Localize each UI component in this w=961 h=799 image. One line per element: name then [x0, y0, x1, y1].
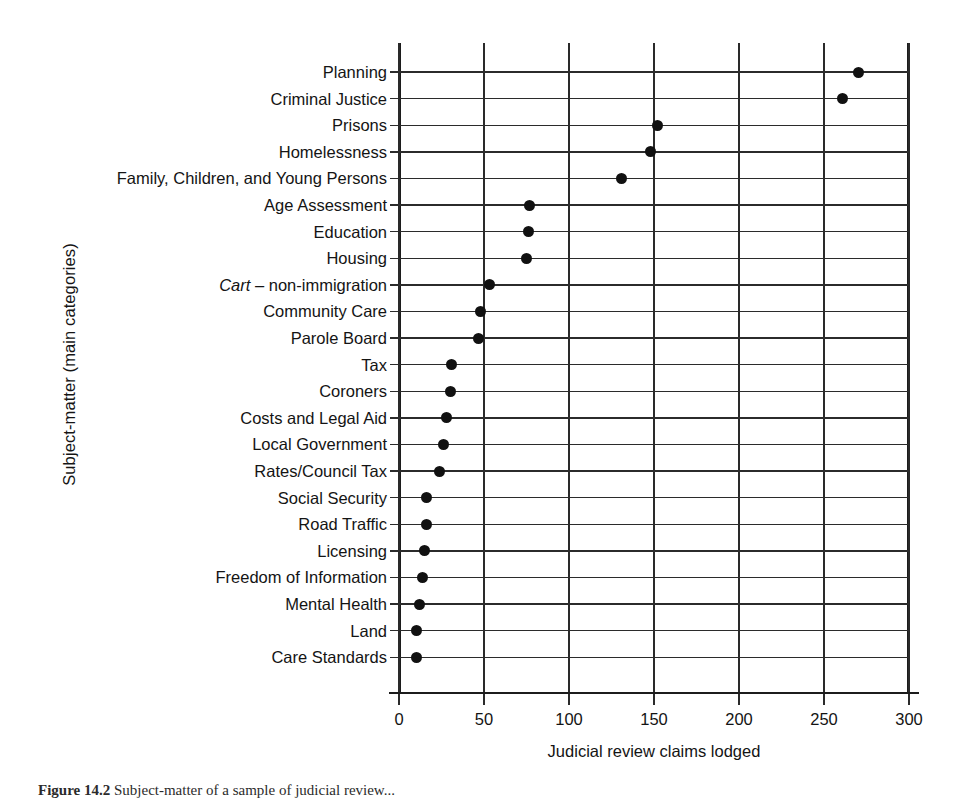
data-point[interactable]: [837, 93, 848, 104]
y-axis-category-label: Cart – non-immigration: [219, 277, 387, 294]
y-axis-category-label: Homelessness: [279, 144, 387, 161]
data-point[interactable]: [475, 306, 486, 317]
y-axis-category-label: Planning: [323, 64, 387, 81]
x-axis-title: Judicial review claims lodged: [399, 742, 909, 761]
gridline-vertical-50: [483, 43, 485, 692]
data-point[interactable]: [853, 67, 864, 78]
y-tick-mark: [390, 178, 399, 180]
data-point[interactable]: [524, 200, 535, 211]
gridline-vertical-200: [738, 43, 740, 692]
data-point[interactable]: [523, 226, 534, 237]
y-tick-mark: [390, 391, 399, 393]
y-tick-mark: [390, 444, 399, 446]
figure-caption-number: Figure 14.2: [38, 782, 110, 798]
data-point[interactable]: [521, 253, 532, 264]
gridline-horizontal: [399, 470, 909, 472]
x-tick-mark: [568, 694, 570, 705]
y-tick-mark: [390, 417, 399, 419]
y-axis-category-label: Coroners: [319, 383, 387, 400]
x-tick-mark: [398, 694, 400, 705]
gridline-vertical-150: [653, 43, 655, 692]
data-point[interactable]: [652, 120, 663, 131]
y-tick-mark: [390, 98, 399, 100]
gridline-horizontal: [399, 178, 909, 180]
y-tick-mark: [390, 524, 399, 526]
y-axis-category-label: Land: [350, 623, 387, 640]
y-tick-mark: [390, 125, 399, 127]
gridline-horizontal: [399, 524, 909, 526]
gridline-horizontal: [399, 657, 909, 659]
y-tick-mark: [390, 258, 399, 260]
x-tick-mark: [483, 694, 485, 705]
gridline-vertical-0: [398, 43, 400, 692]
gridline-horizontal: [399, 603, 909, 605]
y-tick-mark: [390, 311, 399, 313]
x-tick-mark: [908, 694, 910, 705]
x-tick-label-250: 250: [794, 710, 854, 729]
gridline-horizontal: [399, 550, 909, 552]
y-axis-category-label: Mental Health: [285, 596, 387, 613]
y-axis-category-label: Criminal Justice: [271, 91, 387, 108]
gridline-horizontal: [399, 577, 909, 579]
gridline-vertical-300: [908, 43, 910, 692]
x-tick-mark: [823, 694, 825, 705]
data-point[interactable]: [419, 545, 430, 556]
gridline-horizontal: [399, 497, 909, 499]
y-axis-category-label: Prisons: [332, 117, 387, 134]
data-point[interactable]: [484, 279, 495, 290]
y-axis-category-label: Care Standards: [271, 649, 387, 666]
x-tick-label-150: 150: [624, 710, 684, 729]
y-tick-mark: [390, 497, 399, 499]
data-point[interactable]: [421, 492, 432, 503]
y-axis-category-label: Tax: [361, 357, 387, 374]
data-point[interactable]: [445, 386, 456, 397]
figure-container: Subject-matter (main categories) Plannin…: [0, 0, 961, 799]
data-point[interactable]: [417, 572, 428, 583]
y-axis-category-label: Family, Children, and Young Persons: [117, 170, 387, 187]
gridline-horizontal: [399, 417, 909, 419]
y-axis-category-label: Housing: [326, 250, 387, 267]
y-axis-category-label: Age Assessment: [264, 197, 387, 214]
data-point[interactable]: [616, 173, 627, 184]
gridline-horizontal: [399, 71, 909, 73]
data-point[interactable]: [441, 412, 452, 423]
figure-caption-text: Subject-matter of a sample of judicial r…: [114, 782, 395, 798]
y-axis-category-label: Education: [314, 224, 387, 241]
data-point[interactable]: [434, 466, 445, 477]
y-axis-category-label: Social Security: [278, 490, 387, 507]
x-tick-mark: [653, 694, 655, 705]
gridline-horizontal: [399, 258, 909, 260]
data-point[interactable]: [438, 439, 449, 450]
gridline-horizontal: [399, 284, 909, 286]
gridline-vertical-100: [568, 43, 570, 692]
data-point[interactable]: [473, 333, 484, 344]
y-axis-category-label: Community Care: [263, 303, 387, 320]
y-axis-category-label: Parole Board: [291, 330, 387, 347]
y-tick-mark: [390, 204, 399, 206]
gridline-horizontal: [399, 98, 909, 100]
y-tick-mark: [390, 231, 399, 233]
x-tick-mark: [738, 694, 740, 705]
gridline-horizontal: [399, 391, 909, 393]
gridline-horizontal: [399, 444, 909, 446]
y-tick-mark: [390, 71, 399, 73]
data-point[interactable]: [411, 625, 422, 636]
data-point[interactable]: [411, 652, 422, 663]
y-tick-mark: [390, 657, 399, 659]
data-point[interactable]: [446, 359, 457, 370]
y-tick-mark: [390, 550, 399, 552]
y-axis-category-label: Rates/Council Tax: [254, 463, 387, 480]
label-italic-part: Cart: [219, 276, 250, 294]
x-tick-label-200: 200: [709, 710, 769, 729]
data-point[interactable]: [414, 599, 425, 610]
x-tick-label-50: 50: [454, 710, 514, 729]
y-tick-mark: [390, 337, 399, 339]
figure-caption: Figure 14.2 Subject-matter of a sample o…: [38, 782, 395, 799]
data-point[interactable]: [421, 519, 432, 530]
y-tick-mark: [390, 364, 399, 366]
x-tick-label-100: 100: [539, 710, 599, 729]
y-axis-category-label: Local Government: [252, 436, 387, 453]
gridline-horizontal: [399, 231, 909, 233]
x-tick-label-0: 0: [369, 710, 429, 729]
y-axis-title: Subject-matter (main categories): [60, 200, 79, 530]
